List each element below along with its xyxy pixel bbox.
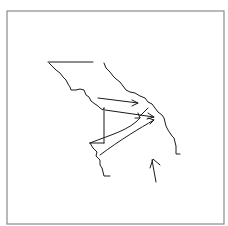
arrow-3: [90, 118, 140, 143]
left-bank-lower: [90, 143, 110, 176]
small-arrow-icon: [150, 159, 160, 182]
sketch-canvas: [0, 0, 228, 226]
arrow-4: [100, 120, 154, 155]
arrow-extra: [140, 108, 148, 116]
frame-border: [7, 11, 224, 224]
arrowhead-3-icon: [135, 113, 140, 118]
right-bank: [104, 63, 180, 154]
arrow-2: [105, 110, 154, 117]
left-bank-upper: [49, 63, 104, 110]
